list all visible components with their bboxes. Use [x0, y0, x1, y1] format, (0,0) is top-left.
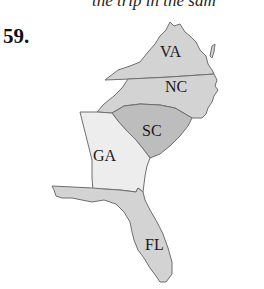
- label-ga: GA: [93, 147, 117, 164]
- label-fl: FL: [145, 236, 164, 253]
- chesapeake-peninsula: [210, 44, 215, 58]
- label-nc: NC: [165, 78, 187, 95]
- label-sc: SC: [142, 122, 162, 139]
- state-fl: [52, 186, 172, 282]
- label-va: VA: [160, 43, 181, 60]
- southeast-states-map: VA NC SC GA FL: [0, 0, 264, 289]
